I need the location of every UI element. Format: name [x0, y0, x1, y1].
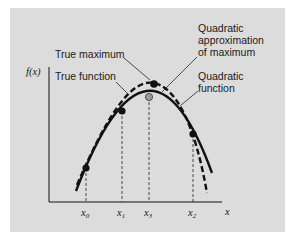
x-guides: [86, 97, 193, 202]
parabolic-interpolation-diagram: f(x) x x0 x1 x3 x2 True maximum True fun…: [0, 0, 292, 245]
label-true-maximum: True maximum: [55, 48, 125, 60]
point-x0: [82, 164, 89, 171]
point-x1: [118, 107, 125, 114]
tick-x3: x3: [143, 207, 153, 220]
label-quad-approx-3: of maximum: [198, 46, 255, 58]
point-x2: [189, 130, 196, 137]
true-function-curve: [77, 83, 207, 193]
tick-x0: x0: [80, 207, 90, 220]
true-max-point: [150, 80, 158, 88]
tick-x1: x1: [116, 207, 125, 220]
label-quad-approx-2: approximation: [198, 34, 264, 46]
x-axis-label: x: [224, 206, 230, 217]
label-quad-function-1: Quadratic: [198, 70, 244, 82]
label-true-function: True function: [55, 70, 116, 82]
tick-x2: x2: [187, 207, 197, 220]
y-axis-label: f(x): [26, 66, 41, 78]
label-quad-approx-1: Quadratic: [198, 22, 244, 34]
label-quad-function-2: function: [198, 82, 235, 94]
quadratic-max-point: [145, 93, 152, 100]
